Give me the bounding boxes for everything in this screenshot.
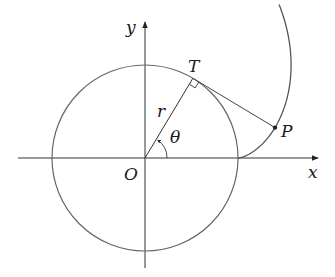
y-axis-label: y: [125, 17, 136, 37]
origin-label: O: [124, 164, 138, 184]
radius-label: r: [157, 101, 166, 121]
point-p-dot: [273, 125, 277, 129]
x-axis-label: x: [308, 162, 318, 182]
tangent-segment: [193, 78, 275, 127]
radius-line: [145, 78, 193, 158]
involute-diagram: y x O T P r θ: [0, 0, 335, 277]
angle-label: θ: [170, 127, 180, 147]
curve-point-label: P: [280, 121, 293, 141]
angle-arc: [158, 140, 167, 158]
tangent-point-label: T: [188, 56, 201, 76]
